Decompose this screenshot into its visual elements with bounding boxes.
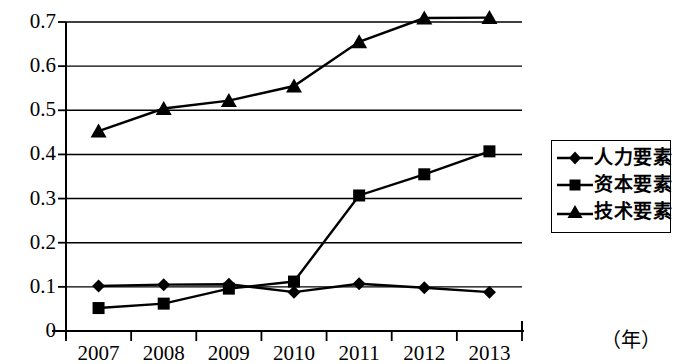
x-axis-tick-label: 2007 — [66, 343, 131, 364]
legend-item-label: 人力要素 — [594, 148, 672, 167]
legend-item-0: 人力要素 — [556, 144, 664, 171]
diamond-marker-icon — [556, 147, 594, 169]
legend-item-label: 资本要素 — [594, 175, 672, 194]
legend-item-2: 技术要素 — [556, 198, 664, 225]
legend-item-label: 技术要素 — [594, 202, 672, 221]
data-series-layer — [91, 10, 498, 314]
x-axis-ticks — [66, 331, 522, 341]
x-axis-tick-label: 2011 — [327, 343, 392, 364]
series-3 — [91, 10, 498, 137]
legend-item-1: 资本要素 — [556, 171, 664, 198]
y-axis-tick-label: 0.3 — [0, 188, 56, 209]
y-axis-tick-label: 0.7 — [0, 11, 56, 32]
y-axis-tick-label: 0.5 — [0, 99, 56, 120]
y-axis-tick-label: 0.2 — [0, 232, 56, 253]
x-axis-tick-label: 2012 — [392, 343, 457, 364]
x-axis-tick-label: 2008 — [131, 343, 196, 364]
x-axis-tick-label: 2013 — [457, 343, 522, 364]
triangle-marker-icon — [556, 201, 594, 223]
y-axis-tick-label: 0 — [0, 320, 56, 341]
square-marker-icon — [556, 174, 594, 196]
y-axis-tick-label: 0.4 — [0, 143, 56, 164]
x-axis-unit-label: （年） — [601, 330, 661, 350]
x-axis-tick-label: 2009 — [196, 343, 261, 364]
y-axis-tick-label: 0.1 — [0, 276, 56, 297]
x-axis-tick-label: 2010 — [261, 343, 326, 364]
y-axis-tick-label: 0.6 — [0, 55, 56, 76]
chart-legend: 人力要素 资本要素 技术要素 — [551, 140, 671, 233]
